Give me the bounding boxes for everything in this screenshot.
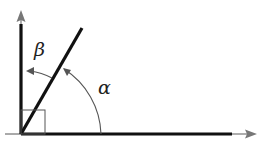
alpha-arrowhead-icon — [63, 68, 71, 76]
beta-label: β — [34, 40, 45, 59]
alpha-label: α — [98, 78, 111, 97]
diagram-canvas — [0, 0, 260, 151]
angle-diagram: β α — [0, 0, 260, 151]
alpha-arc — [64, 69, 101, 134]
beta-arrowhead-icon — [26, 67, 34, 75]
diagonal-ray — [21, 28, 82, 134]
